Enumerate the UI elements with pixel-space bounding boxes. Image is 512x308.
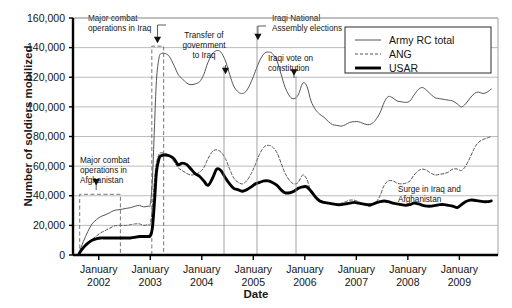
legend: Army RC totalANGUSAR: [345, 27, 491, 74]
x-tick-label-month: January: [183, 263, 221, 275]
x-axis-ticks-group: January2002January2003January2004January…: [80, 255, 479, 288]
annotation-arrow-iraqi-national-assembly-elections: [254, 34, 261, 41]
y-tick-label: 120,000: [27, 71, 65, 83]
y-tick-label: 0: [59, 249, 65, 261]
x-tick-label-year: 2009: [448, 276, 472, 288]
annotation-label-iraqi-vote-on-constitution: constitution: [268, 64, 310, 73]
x-tick-label-year: 2004: [190, 276, 214, 288]
x-tick-label-year: 2003: [139, 276, 163, 288]
annotation-label-major-combat-iraq: Major combat: [88, 14, 138, 23]
x-tick-label-month: January: [441, 263, 479, 275]
y-tick-label: 140,000: [27, 41, 65, 53]
legend-label-usar: USAR: [389, 62, 419, 74]
y-tick-label: 40,000: [33, 189, 65, 201]
annotation-label-transfer-of-government: to Iraq: [192, 51, 216, 60]
y-tick-label: 20,000: [33, 219, 65, 231]
x-tick-label-year: 2002: [87, 276, 111, 288]
x-tick-label-year: 2007: [345, 276, 369, 288]
annotation-label-iraqi-national-assembly-elections: Iraqi National: [272, 14, 320, 23]
annotation-arrow-major-combat-iraq: [154, 37, 161, 44]
annotation-arrow-transfer-of-government: [222, 68, 229, 75]
annotation-label-major-combat-afghanistan: Major combat: [80, 156, 130, 165]
legend-label-army-rc-total: Army RC total: [389, 34, 454, 46]
x-tick-label-month: January: [80, 263, 118, 275]
data-series-group: [79, 50, 491, 253]
x-tick-label-month: January: [389, 263, 427, 275]
annotation-label-surge-in-iraq-and-afghanistan: Surge in Iraq and: [398, 185, 461, 194]
annotation-label-major-combat-iraq: operations in Iraq: [88, 24, 152, 33]
x-tick-label-year: 2008: [396, 276, 420, 288]
annotation-leader-iraqi-national-assembly-elections: [258, 26, 266, 34]
annotation-label-major-combat-afghanistan: Afghanistan: [80, 176, 124, 185]
annotation-label-major-combat-afghanistan: operations in: [80, 166, 127, 175]
y-tick-label: 160,000: [27, 12, 65, 24]
y-tick-label: 80,000: [33, 130, 65, 142]
annotation-label-surge-in-iraq-and-afghanistan: Afghanistan: [398, 195, 442, 204]
annotation-label-transfer-of-government: Transfer of: [184, 31, 224, 40]
x-tick-label-month: January: [338, 263, 376, 275]
x-tick-label-year: 2005: [242, 276, 266, 288]
chart-svg: 020,00040,00060,00080,000100,000120,0001…: [0, 0, 512, 308]
x-tick-label-month: January: [286, 263, 324, 275]
y-axis-ticks-group: 020,00040,00060,00080,000100,000120,0001…: [27, 12, 73, 261]
annotation-label-iraqi-national-assembly-elections: Assembly elections: [272, 24, 342, 33]
annotation-leader-major-combat-iraq: [157, 25, 166, 37]
x-tick-label-month: January: [132, 263, 170, 275]
x-tick-label-year: 2006: [293, 276, 317, 288]
y-tick-label: 60,000: [33, 160, 65, 172]
annotation-label-iraqi-vote-on-constitution: Iraqi vote on: [268, 54, 314, 63]
annotation-label-transfer-of-government: government: [182, 41, 226, 50]
x-tick-label-month: January: [235, 263, 273, 275]
legend-label-ang: ANG: [389, 48, 412, 60]
y-tick-label: 100,000: [27, 101, 65, 113]
series-line-army-rc-total: [79, 50, 491, 252]
series-line-usar: [79, 155, 491, 254]
chart-figure: Number of soldiers mobilized Date 020,00…: [0, 0, 512, 308]
